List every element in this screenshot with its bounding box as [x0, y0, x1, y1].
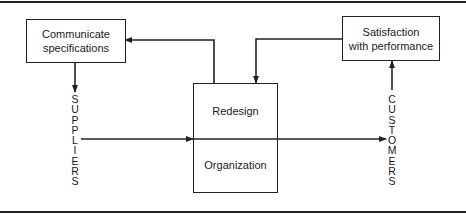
customers-label: C U S T O M E R S [385, 94, 399, 187]
suppliers-label: S U P P L I E R S [68, 94, 82, 187]
